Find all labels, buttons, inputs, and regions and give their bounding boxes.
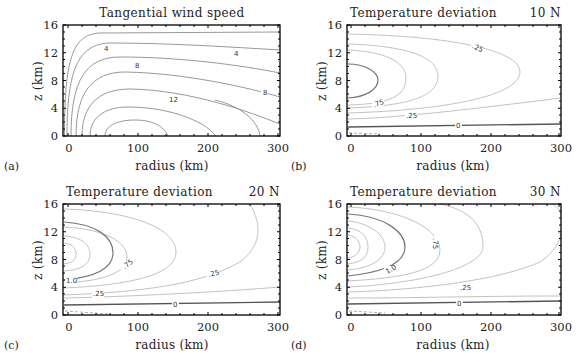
- y-axis-label-c: z (km): [31, 240, 45, 280]
- x-axis-label-a: radius (km): [135, 159, 208, 173]
- svg-text:8: 8: [263, 89, 267, 97]
- x-tick-labels-d: 0 100 200 300: [347, 320, 572, 334]
- svg-text:300: 300: [550, 320, 572, 334]
- x-axis-label-c: radius (km): [135, 338, 208, 352]
- panel-d: Temperature deviation 30 N 1.0 .75 .25 0: [291, 185, 572, 352]
- svg-text:4: 4: [51, 280, 58, 294]
- y-tick-labels-a: 0 4 8 12 16: [43, 18, 58, 143]
- svg-text:0: 0: [65, 320, 72, 334]
- panel-label-c: (c): [4, 339, 19, 352]
- svg-text:200: 200: [197, 320, 219, 334]
- panel-a-title: Tangential wind speed: [99, 6, 244, 20]
- panel-label-d: (d): [291, 339, 307, 352]
- contours-wind: [65, 32, 281, 136]
- panel-d-latitude: 30 N: [530, 185, 561, 199]
- svg-text:100: 100: [127, 141, 149, 155]
- svg-text:300: 300: [550, 141, 572, 155]
- svg-text:0: 0: [51, 129, 58, 143]
- y-axis-label-b: z (km): [315, 61, 329, 101]
- contours-temp-b: [348, 34, 561, 134]
- svg-text:12: 12: [327, 225, 342, 239]
- svg-text:.25: .25: [406, 112, 417, 120]
- plot-frame-c: [63, 204, 280, 315]
- svg-text:0: 0: [347, 320, 354, 334]
- svg-text:0: 0: [173, 301, 177, 309]
- svg-text:0: 0: [51, 308, 58, 322]
- svg-text:0: 0: [335, 129, 342, 143]
- svg-text:.75: .75: [121, 258, 135, 271]
- svg-text:300: 300: [267, 320, 289, 334]
- panel-a: Tangential wind speed 4 4 8 8 12: [4, 6, 289, 173]
- x-axis-label-d: radius (km): [416, 338, 489, 352]
- y-tick-labels-c: 0 4 8 12 16: [43, 197, 58, 322]
- svg-text:8: 8: [51, 74, 58, 88]
- svg-text:12: 12: [43, 225, 58, 239]
- svg-text:4: 4: [51, 101, 58, 115]
- svg-text:12: 12: [169, 96, 178, 104]
- contours-temp-d: [348, 204, 561, 313]
- panel-d-title: Temperature deviation: [350, 185, 497, 199]
- contour-labels-c: 1.0 .75 .25 .25 0: [65, 258, 220, 309]
- svg-text:0: 0: [457, 300, 461, 308]
- x-tick-labels-a: 0 100 200 300: [65, 141, 289, 155]
- svg-text:.25: .25: [93, 290, 104, 298]
- svg-text:8: 8: [51, 253, 58, 267]
- svg-text:4: 4: [335, 280, 342, 294]
- svg-text:16: 16: [43, 197, 58, 211]
- panel-label-b: (b): [291, 160, 307, 173]
- svg-text:8: 8: [335, 74, 342, 88]
- y-tick-labels-d: 0 4 8 12 16: [327, 197, 342, 322]
- panel-c-title: Temperature deviation: [66, 185, 213, 199]
- svg-text:200: 200: [480, 141, 502, 155]
- panel-label-a: (a): [4, 160, 19, 173]
- y-axis-label-a: z (km): [31, 61, 45, 101]
- svg-text:.25: .25: [460, 284, 471, 292]
- svg-text:16: 16: [43, 18, 58, 32]
- svg-text:8: 8: [135, 62, 139, 70]
- svg-text:0: 0: [335, 308, 342, 322]
- svg-text:4: 4: [234, 50, 239, 58]
- x-tick-labels-b: 0 100 200 300: [347, 141, 572, 155]
- svg-text:1.0: 1.0: [66, 277, 77, 285]
- panel-b-title: Temperature deviation: [350, 6, 497, 20]
- svg-text:0: 0: [65, 141, 72, 155]
- y-tick-labels-b: 0 4 8 12 16: [327, 18, 342, 143]
- figure-canvas: Tangential wind speed 4 4 8 8 12: [0, 0, 580, 357]
- svg-text:8: 8: [335, 253, 342, 267]
- x-tick-labels-c: 0 100 200 300: [65, 320, 289, 334]
- svg-text:16: 16: [327, 197, 342, 211]
- svg-text:100: 100: [410, 320, 432, 334]
- svg-text:200: 200: [197, 141, 219, 155]
- panel-c: Temperature deviation 20 N 1.0 .75 .25 .…: [4, 185, 289, 352]
- svg-text:300: 300: [267, 141, 289, 155]
- svg-text:100: 100: [127, 320, 149, 334]
- svg-text:12: 12: [43, 46, 58, 60]
- svg-text:200: 200: [480, 320, 502, 334]
- y-axis-label-d: z (km): [315, 240, 329, 280]
- svg-text:0: 0: [347, 141, 354, 155]
- svg-text:.75: .75: [431, 238, 439, 249]
- x-axis-label-b: radius (km): [416, 159, 489, 173]
- ticks-c: [63, 204, 280, 315]
- svg-text:4: 4: [335, 101, 342, 115]
- panel-c-latitude: 20 N: [249, 185, 280, 199]
- svg-text:0: 0: [456, 122, 460, 130]
- svg-text:4: 4: [104, 45, 109, 53]
- svg-text:100: 100: [410, 141, 432, 155]
- svg-text:16: 16: [327, 18, 342, 32]
- svg-text:12: 12: [327, 46, 342, 60]
- panel-b-latitude: 10 N: [530, 6, 561, 20]
- panel-b: Temperature deviation 10 N .25 .75 .25 0: [291, 6, 572, 173]
